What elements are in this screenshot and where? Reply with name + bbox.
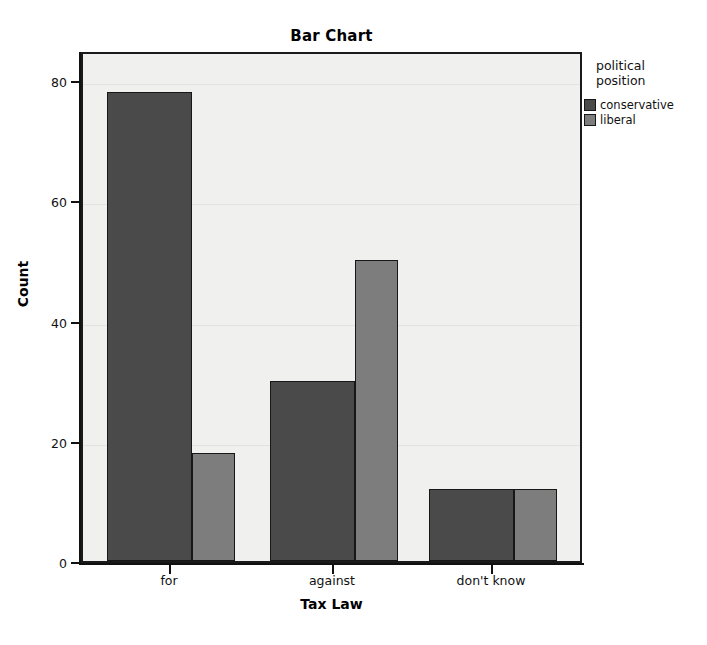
- bar-conservative-don-t-know: [429, 489, 514, 561]
- y-axis-line: [79, 52, 81, 565]
- legend-label-conservative: conservative: [600, 98, 674, 112]
- y-axis-tick-label: 20: [27, 435, 67, 450]
- y-axis-tick: [71, 81, 80, 83]
- x-axis-tick-label: against: [262, 573, 402, 588]
- bar-liberal-against: [355, 260, 398, 561]
- y-axis-tick: [71, 201, 80, 203]
- x-axis-tick-label: for: [99, 573, 239, 588]
- y-axis-tick: [71, 442, 80, 444]
- legend-swatch-liberal: [584, 114, 596, 126]
- legend-swatch-conservative: [584, 99, 596, 111]
- legend-title-line-2: position: [596, 73, 691, 88]
- y-axis-tick-label: 40: [27, 315, 67, 330]
- y-axis-tick-label: 80: [27, 75, 67, 90]
- bar-conservative-against: [270, 381, 355, 561]
- legend-items: conservativeliberal: [596, 98, 706, 127]
- y-axis-tick-label: 60: [27, 195, 67, 210]
- legend-title-line-1: political: [596, 58, 691, 73]
- legend-item-liberal: liberal: [584, 113, 706, 127]
- chart-title: Bar Chart: [81, 27, 582, 45]
- y-axis-title: Count: [15, 239, 31, 329]
- plot-area: [81, 52, 582, 563]
- plot-inner: [83, 54, 580, 561]
- y-axis-tick-label: 0: [27, 556, 67, 571]
- bar-chart: Bar Chart 020406080 Count foragainstdon'…: [0, 0, 707, 645]
- bar-conservative-for: [107, 92, 192, 561]
- bar-liberal-don-t-know: [514, 489, 557, 561]
- legend: political position conservativeliberal: [596, 58, 706, 128]
- legend-label-liberal: liberal: [600, 113, 636, 127]
- y-axis-tick: [71, 322, 80, 324]
- gridline: [83, 84, 580, 85]
- legend-item-conservative: conservative: [584, 98, 706, 112]
- legend-title: political position: [596, 58, 691, 88]
- bar-liberal-for: [192, 453, 235, 561]
- x-axis-tick-label: don't know: [421, 573, 561, 588]
- x-axis-title: Tax Law: [81, 596, 582, 612]
